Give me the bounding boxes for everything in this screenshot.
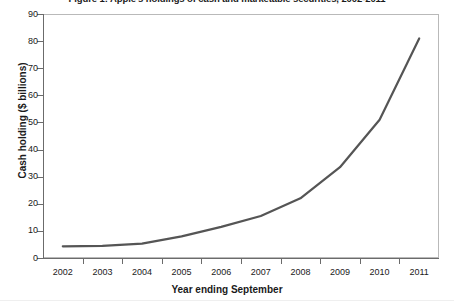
chart-title: Figure 1: Apple's holdings of cash and m… — [0, 0, 454, 4]
page-separator-rule — [0, 300, 454, 301]
x-axis-title: Year ending September — [0, 284, 454, 295]
y-tick-label: 10 — [4, 226, 38, 235]
x-tick-mark — [122, 258, 123, 264]
y-tick-label: 90 — [4, 10, 38, 19]
x-tick-mark — [360, 258, 361, 264]
chart-figure: Figure 1: Apple's holdings of cash and m… — [0, 0, 454, 305]
y-tick-label: 20 — [4, 199, 38, 208]
chart-title-clip: Figure 1: Apple's holdings of cash and m… — [0, 0, 454, 9]
x-tick-mark — [399, 258, 400, 264]
series-line-cash-holding — [63, 38, 419, 246]
y-tick-label: 0 — [4, 254, 38, 263]
x-tick-mark — [320, 258, 321, 264]
data-line-plot — [43, 14, 439, 258]
x-tick-mark — [162, 258, 163, 264]
x-tick-mark — [83, 258, 84, 264]
x-tick-mark — [241, 258, 242, 264]
y-axis-title: Cash holding ($ billions) — [17, 41, 28, 201]
x-tick-label: 2011 — [392, 267, 446, 277]
y-axis-line — [43, 14, 44, 258]
x-tick-mark — [281, 258, 282, 264]
x-tick-mark — [201, 258, 202, 264]
